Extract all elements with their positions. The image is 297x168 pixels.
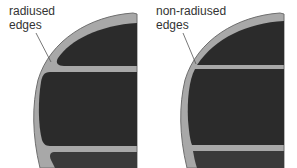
- label-line-1: non-radiused: [156, 4, 226, 18]
- label-line-2: edges: [156, 18, 226, 32]
- leader-line: [183, 33, 196, 64]
- panel-radiused: radiused edges: [0, 0, 148, 168]
- label-line-2: edges: [9, 18, 55, 32]
- label-line-1: radiused: [9, 4, 55, 18]
- label-radiused: radiused edges: [9, 4, 55, 32]
- panel-non-radiused: non-radiused edges: [147, 0, 295, 168]
- label-non-radiused: non-radiused edges: [156, 4, 226, 32]
- leader-line: [36, 33, 51, 62]
